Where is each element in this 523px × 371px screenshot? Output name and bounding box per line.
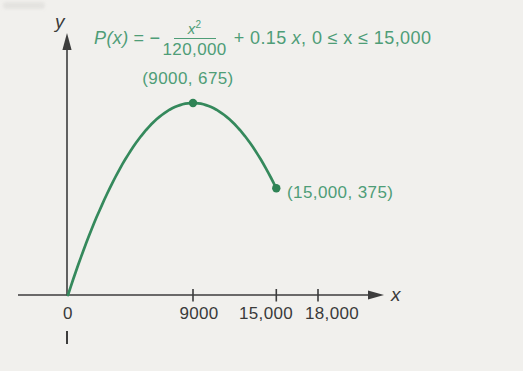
profit-curve — [68, 103, 276, 295]
y-axis-label: y — [55, 12, 65, 33]
x-axis-arrowhead — [368, 290, 384, 299]
x-tick-label-15000: 15,000 — [230, 305, 302, 324]
end-point-label: (15,000, 375) — [287, 184, 393, 203]
equation-lhs: P(x) — [94, 29, 129, 49]
peak-point-label: (9000, 675) — [118, 70, 258, 89]
equation: P(x) = − x2 120,000 + 0.15 x , 0 ≤ x ≤ 1… — [94, 14, 431, 64]
y-axis-arrowhead — [62, 33, 71, 50]
curve-point-dot — [189, 99, 197, 107]
x-axis-label: x — [391, 285, 401, 306]
equation-domain: , 0 ≤ x ≤ 15,000 — [301, 29, 431, 49]
fraction-denominator: 120,000 — [162, 39, 226, 58]
profit-function-figure: y P(x) = − x2 120,000 + 0.15 x , 0 ≤ x ≤… — [0, 0, 523, 371]
plus-term: + 0.15 — [234, 29, 287, 49]
fraction-numerator: x2 — [174, 20, 216, 39]
equation-variable: x — [292, 29, 301, 49]
numerator-variable: x — [188, 20, 196, 37]
x-tick-label-0: 0 — [32, 305, 104, 324]
minus-sign: − — [150, 29, 161, 49]
numerator-exponent: 2 — [196, 19, 202, 30]
curve-points — [189, 99, 281, 193]
x-tick-label-18000: 18,000 — [296, 305, 368, 324]
x-tick-label-9000: 9000 — [163, 305, 235, 324]
equals-sign: = — [134, 29, 145, 49]
curve-point-dot — [272, 184, 280, 192]
equation-fraction: x2 120,000 — [162, 20, 226, 58]
